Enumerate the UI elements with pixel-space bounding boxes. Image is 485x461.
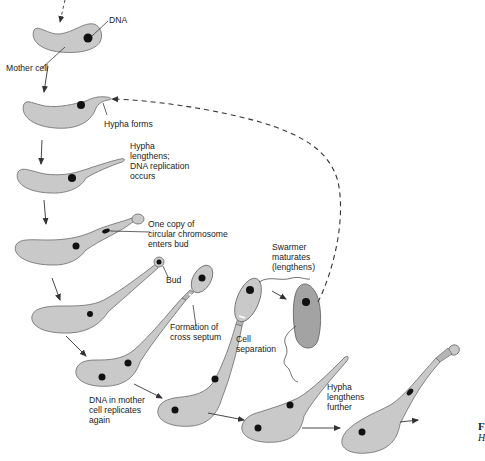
label-hypha-forms: Hypha forms [104, 119, 153, 129]
label-dna-replicates-again: DNA in mother cell replicates again [89, 395, 145, 425]
label-cell-separation: Cell separation [236, 334, 276, 354]
label-dna: DNA [109, 15, 127, 25]
stage-hypha-lengthens [17, 159, 124, 193]
incoming-arrow [60, 0, 65, 22]
caption-fragment-1: F [478, 420, 485, 432]
label-cross-septum: Formation of cross septum [170, 322, 221, 342]
label-bud: Bud [166, 275, 181, 285]
stage-chromosome-enters-bud [15, 214, 150, 265]
stage-mother-cell [33, 21, 108, 68]
label-hypha-lengthens: Hypha lengthens; DNA replication occurs [130, 141, 189, 181]
arrow-5-6 [66, 336, 86, 356]
caption-fragment-2: H [478, 432, 485, 443]
stage-bud [32, 257, 168, 333]
arrow-7-8 [208, 413, 244, 420]
arrow-4-5 [52, 278, 60, 300]
label-hypha-further: Hypha lengthens further [327, 382, 364, 412]
label-swarmer: Swarmer maturates (lengthens) [272, 242, 315, 272]
arrow-2-3 [41, 140, 42, 164]
stage-hypha-forms [23, 97, 111, 129]
label-mother-cell: Mother cell [6, 63, 48, 73]
arrow-3-4 [44, 200, 46, 224]
label-one-copy: One copy of circular chromosome enters b… [148, 219, 228, 249]
stage-swarmer [284, 284, 321, 382]
arrow-to-swarmer [272, 291, 286, 299]
arrow-9-out [400, 420, 418, 422]
